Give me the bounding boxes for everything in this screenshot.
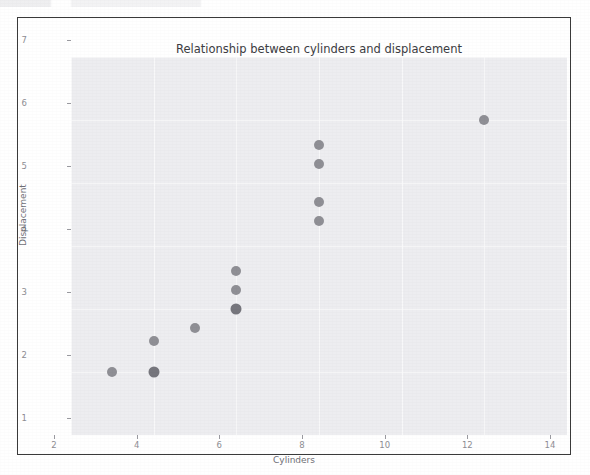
x-tick-mark [550, 435, 551, 439]
y-tick-label: 6 [22, 99, 27, 108]
x-tick-mark [219, 435, 220, 439]
x-tick-mark [137, 435, 138, 439]
y-tick-mark [67, 229, 71, 230]
y-axis-title: Displacement [18, 184, 28, 246]
plot-panel [71, 57, 567, 435]
scatter-plot-page: Relationship between cylinders and displ… [0, 0, 590, 475]
y-tick-mark [67, 292, 71, 293]
x-tick-label: 12 [462, 441, 473, 450]
x-tick-mark [385, 435, 386, 439]
y-tick-mark [67, 418, 71, 419]
x-tick-mark [54, 435, 55, 439]
x-tick-label: 14 [545, 441, 556, 450]
data-point-marker [314, 159, 324, 169]
grid-line-vertical [402, 57, 403, 435]
y-tick-label: 2 [22, 351, 27, 360]
y-tick-label: 3 [22, 288, 27, 297]
grid-line-vertical [236, 57, 237, 435]
y-tick-mark [67, 40, 71, 41]
data-point-marker [314, 197, 324, 207]
scan-artifact [0, 0, 590, 7]
data-point-marker [231, 266, 241, 276]
data-point-marker [314, 140, 324, 150]
figure-frame: Relationship between cylinders and displ… [17, 17, 571, 455]
data-point-marker [479, 115, 489, 125]
y-tick-mark [67, 103, 71, 104]
x-tick-mark [467, 435, 468, 439]
x-axis-title: Cylinders [18, 455, 570, 465]
x-tick-label: 8 [299, 441, 304, 450]
y-tick-mark [67, 166, 71, 167]
grid-line-vertical [154, 57, 155, 435]
grid-line-vertical [319, 57, 320, 435]
y-tick-label: 5 [22, 162, 27, 171]
grid-line-horizontal [71, 435, 567, 436]
x-tick-mark [302, 435, 303, 439]
y-tick-label: 1 [22, 414, 27, 423]
data-point-marker [190, 323, 200, 333]
grid-line-vertical [71, 57, 72, 435]
data-point-marker [148, 367, 159, 378]
x-tick-label: 2 [51, 441, 56, 450]
y-tick-label: 7 [22, 36, 27, 45]
grid-line-vertical [484, 57, 485, 435]
data-point-marker [314, 216, 324, 226]
data-point-marker [149, 336, 159, 346]
chart-title: Relationship between cylinders and displ… [71, 42, 567, 56]
x-tick-label: 6 [217, 441, 222, 450]
data-point-marker [231, 304, 242, 315]
data-point-marker [107, 367, 117, 377]
grid-line-vertical [567, 57, 568, 435]
data-point-marker [231, 285, 241, 295]
y-tick-mark [67, 355, 71, 356]
x-tick-label: 10 [379, 441, 390, 450]
x-tick-label: 4 [134, 441, 139, 450]
